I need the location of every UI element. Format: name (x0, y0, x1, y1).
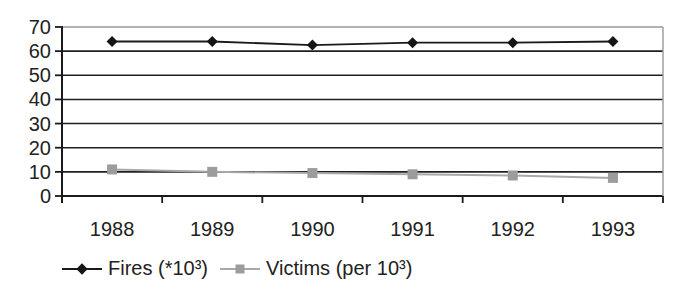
chart-legend: Fires (*10³) Victims (per 10³) (62, 257, 412, 280)
square-marker-icon (236, 264, 245, 273)
line-chart-svg: 010203040506070198819891990199119921993 (0, 0, 686, 296)
data-point-diamond-fires (307, 40, 318, 51)
x-tick-label: 1988 (90, 218, 135, 240)
diamond-marker-icon (76, 263, 87, 274)
chart: 010203040506070198819891990199119921993 … (0, 0, 686, 296)
x-tick-label: 1993 (591, 218, 636, 240)
series-line-fires (112, 41, 613, 45)
data-point-square-victims (508, 170, 518, 180)
data-point-square-victims (307, 168, 317, 178)
data-point-square-victims (207, 167, 217, 177)
x-tick-label: 1992 (491, 218, 536, 240)
data-point-square-victims (408, 169, 418, 179)
victims-line-square-icon (220, 261, 260, 277)
x-tick-label: 1991 (390, 218, 435, 240)
y-tick-label: 30 (29, 113, 51, 135)
data-point-square-victims (608, 173, 618, 183)
y-tick-label: 40 (29, 88, 51, 110)
x-tick-label: 1990 (290, 218, 335, 240)
data-point-diamond-fires (507, 37, 518, 48)
y-tick-label: 60 (29, 40, 51, 62)
series-line-victims (112, 169, 613, 177)
data-point-diamond-fires (407, 37, 418, 48)
data-point-diamond-fires (107, 36, 118, 47)
legend-label-fires: Fires (*10³) (108, 257, 208, 280)
legend-item-fires: Fires (*10³) (62, 257, 208, 280)
data-point-diamond-fires (607, 36, 618, 47)
x-tick-label: 1989 (190, 218, 235, 240)
data-point-square-victims (107, 164, 117, 174)
legend-item-victims: Victims (per 10³) (220, 257, 412, 280)
fires-line-diamond-icon (62, 261, 102, 277)
y-tick-label: 0 (40, 185, 51, 207)
y-tick-label: 20 (29, 137, 51, 159)
y-tick-label: 70 (29, 16, 51, 38)
data-point-diamond-fires (207, 36, 218, 47)
y-tick-label: 10 (29, 161, 51, 183)
legend-label-victims: Victims (per 10³) (266, 257, 412, 280)
y-tick-label: 50 (29, 64, 51, 86)
